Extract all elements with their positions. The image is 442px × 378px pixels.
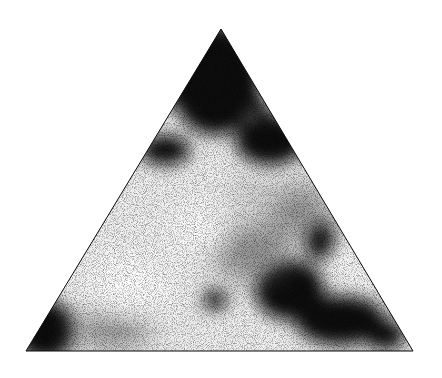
triangle-texture-figure xyxy=(0,0,442,378)
image-canvas: Black-and-white mottled texture clipped … xyxy=(0,0,442,378)
triangle-body xyxy=(0,0,442,378)
